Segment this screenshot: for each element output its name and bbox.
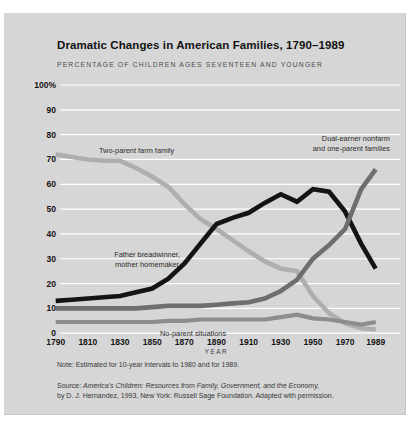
noparent-label: No-parent situations: [160, 329, 226, 339]
chart-title: Dramatic Changes in American Families, 1…: [57, 39, 345, 51]
x-tick-1790: 1790: [41, 337, 71, 347]
x-tick-1930: 1930: [266, 337, 296, 347]
x-tick-1970: 1970: [330, 337, 360, 347]
x-axis-title: YEAR: [187, 348, 247, 355]
y-tick-80: 80: [18, 130, 56, 140]
y-tick-10: 10: [18, 303, 56, 313]
source-line2: by D. J. Hernandez, 1993, New York: Russ…: [57, 392, 334, 399]
y-tick-90: 90: [18, 105, 56, 115]
source-text: Source: America's Children: Resources fr…: [57, 381, 334, 402]
chart-subtitle: PERCENTAGE OF CHILDREN AGES SEVENTEEN AN…: [57, 61, 323, 68]
x-tick-1830: 1830: [105, 337, 135, 347]
source-book-title: America's Children: Resources from Famil…: [83, 382, 319, 389]
series-line-no-parent-situations: [56, 315, 376, 325]
dual-label: Dual-earner nonfarmand one-parent famili…: [313, 134, 390, 154]
x-tick-1910: 1910: [234, 337, 264, 347]
y-tick-70: 70: [18, 154, 56, 164]
y-tick-50: 50: [18, 204, 56, 214]
breadwinner-label: Father breadwinner,mother homemaker: [88, 250, 206, 270]
y-tick-100: 100%: [18, 80, 56, 90]
y-tick-30: 30: [18, 254, 56, 264]
note-text: Note: Estimated for 10-year intervals to…: [57, 361, 239, 368]
y-tick-20: 20: [18, 279, 56, 289]
y-tick-40: 40: [18, 229, 56, 239]
y-tick-60: 60: [18, 179, 56, 189]
x-tick-1810: 1810: [73, 337, 103, 347]
farm-label: Two-parent farm family: [99, 146, 174, 156]
source-prefix: Source:: [57, 382, 83, 389]
x-tick-1989: 1989: [361, 337, 391, 347]
x-tick-1950: 1950: [298, 337, 328, 347]
